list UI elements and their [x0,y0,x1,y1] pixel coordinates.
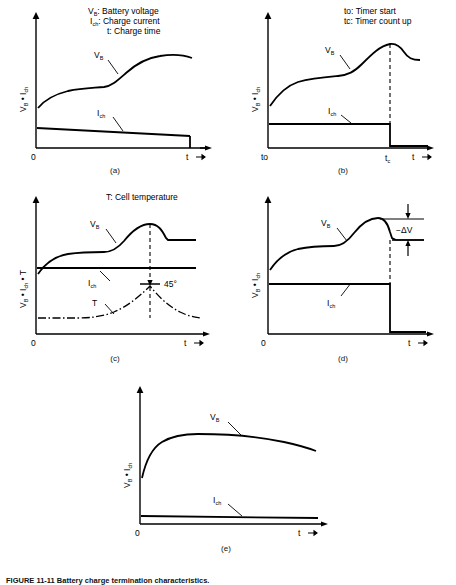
current-curve [269,284,426,332]
current-leader [341,283,351,296]
voltage-curve-label: VB [321,218,331,229]
delta-upper-arrow-icon [405,213,410,219]
panel-e: VB Ich VB • Ich 0 t (e) [106,372,356,547]
current-curve-label: Ich [97,108,105,119]
panel-a: VB Ich VB • Ich 0 t VB: Battery voltage … [0,0,228,165]
current-leader [228,504,242,516]
x-end-label: t [184,338,187,348]
angle-label: 45° [164,279,177,289]
panel-c: 45° VB Ich T VB • Ich • T 0 t T: Cell te… [0,186,228,356]
y-axis-label: VB • Ich [250,273,261,298]
current-curve-label: Ich [213,495,221,506]
y-axis-label: VB • Ich [122,463,133,488]
panel-e-plot: VB Ich VB • Ich 0 t [106,372,356,547]
y-axis-label: VB • Ich [18,87,29,112]
y-axis-label: VB • Ich • T [18,270,29,308]
legend-item-timer-start: to: Timer start [344,6,397,16]
x-cutoff-label: tc [385,153,390,164]
temperature-curve [38,286,200,318]
delta-v-label: −ΔV [396,225,413,235]
temperature-leader [105,304,114,314]
voltage-curve [38,224,196,274]
panel-b: VB Ich VB • Ich to tc t to: Timer start … [228,0,456,165]
y-axis-arrow-icon [265,12,272,19]
voltage-leader [337,228,347,241]
voltage-curve-label: VB [90,219,100,230]
current-curve-label: Ich [328,106,336,117]
angle-arrow-icon [147,280,152,286]
voltage-curve [142,434,316,478]
panel-b-plot: VB Ich VB • Ich to tc t to: Timer start … [228,0,456,165]
current-leader [341,115,351,123]
y-axis-arrow-icon [265,196,272,203]
voltage-leader [340,55,350,69]
voltage-curve-label: VB [210,412,220,423]
voltage-curve-label: VB [325,45,335,56]
y-axis-arrow-icon [137,386,144,393]
time-arrow-icon [308,531,317,535]
x-end-label: t [298,528,301,538]
x-origin-label: 0 [261,338,266,348]
panel-a-sublabel: (a) [95,166,135,175]
voltage-leader [228,422,242,436]
x-axis-arrow-icon [427,331,434,336]
current-leader [113,117,123,131]
voltage-curve [38,55,192,108]
voltage-curve [270,218,396,270]
time-arrow-icon [196,155,205,159]
voltage-curve [270,44,420,106]
time-arrow-icon [422,155,431,159]
current-curve-label: Ich [327,298,335,309]
time-arrow-icon [194,341,203,345]
current-curve [269,124,428,146]
panel-a-plot: VB Ich VB • Ich 0 t VB: Battery voltage … [0,0,228,165]
panel-d: −ΔV VB Ich VB • Ich 0 t (d) [228,186,456,356]
x-end-label: t [186,152,189,162]
panel-d-sublabel: (d) [323,354,363,363]
panel-e-sublabel: (e) [206,544,246,553]
legend-item-timer-count: tc: Timer count up [344,16,412,26]
legend-item-temperature: T: Cell temperature [106,192,178,202]
current-curve [37,128,190,136]
x-origin-label: 0 [135,528,140,538]
delta-lower-arrow-icon [405,240,410,246]
x-end-label: t [408,338,411,348]
temperature-curve-label: T [92,298,97,308]
x-origin-label: to [261,152,268,162]
x-axis-arrow-icon [321,521,328,526]
voltage-leader [106,229,116,243]
time-arrow-icon [418,341,427,345]
panel-d-plot: −ΔV VB Ich VB • Ich 0 t [228,186,456,356]
x-axis-arrow-icon [427,145,434,150]
x-axis-arrow-icon [203,331,210,336]
voltage-leader [108,60,118,74]
panel-c-plot: 45° VB Ich T VB • Ich • T 0 t T: Cell te… [0,186,228,356]
y-axis-arrow-icon [33,12,40,19]
voltage-curve-label: VB [94,50,104,61]
x-origin-label: 0 [31,338,36,348]
x-end-label: t [412,152,415,162]
current-leader [100,271,110,281]
x-origin-label: 0 [31,152,36,162]
y-axis-label: VB • Ich [250,87,261,112]
panel-b-sublabel: (b) [323,166,363,175]
legend-item-time: t: Charge time [107,26,161,36]
current-curve [141,516,318,518]
figure-caption: FIGURE 11-11 Battery charge termination … [6,576,209,585]
y-axis-arrow-icon [33,196,40,203]
panel-c-sublabel: (c) [95,354,135,363]
current-curve-label: Ich [88,278,96,289]
